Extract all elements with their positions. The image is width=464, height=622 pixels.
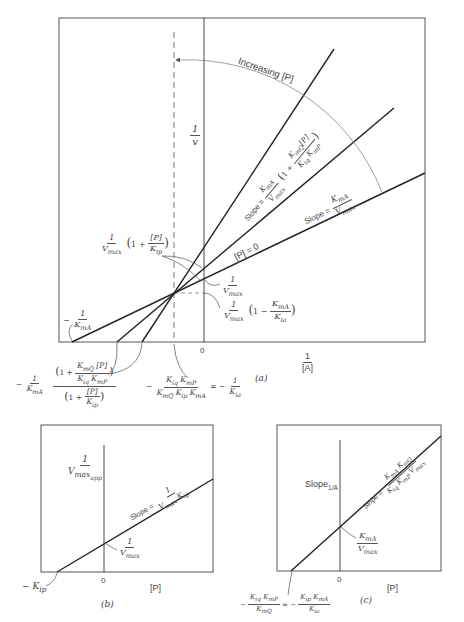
- y-intercept-label-c: KmAVmax: [356, 532, 380, 556]
- leader-b-x-intercept: [46, 573, 57, 586]
- y-axis-label-c: Slope1/A: [305, 480, 338, 491]
- x-axis-label-a: 1[A]: [300, 352, 315, 373]
- line-p-high: [142, 49, 334, 342]
- x-intercept-label-b: − Kip: [22, 582, 46, 593]
- convergence-x-label: − Kiq KmPKmQ Kip KmA = − 1Kia: [146, 376, 243, 399]
- x-intercept-inhib-label: − 1KmA (1 + KmQ [P]Kiq KmP) (1 + [P]Kip): [16, 362, 116, 408]
- caption-b: (b): [101, 600, 114, 609]
- panel-a: [59, 18, 425, 378]
- origin-b: 0: [101, 577, 105, 585]
- y-axis-label-b: 1Vmaxapp: [66, 455, 104, 481]
- panel-b: [41, 425, 213, 586]
- leader-intercept-base: [205, 280, 220, 285]
- caption-a: (a): [255, 374, 267, 383]
- convergence-y-label: 1Vmax (1 − KmAKia): [222, 300, 296, 324]
- y-intercept-label-b: 1Vmax: [118, 538, 142, 559]
- origin-c: 0: [337, 576, 341, 584]
- leader-convergence-x: [174, 344, 188, 378]
- leader-convergence-y: [204, 293, 220, 308]
- origin-a: 0: [200, 347, 204, 355]
- intercept-base-label: 1Vmax: [221, 276, 245, 297]
- intercept-inhib-label: 1Vmax (1 + [P]Kip): [100, 234, 169, 255]
- x-axis-label-c: [P]: [387, 584, 398, 593]
- x-axis-label-b: [P]: [150, 584, 161, 593]
- caption-c: (c): [360, 596, 372, 605]
- x-intercept-label-c: − Kiq KmPKmQ = − Kip KmAKia: [240, 594, 330, 615]
- leader-b-y-intercept: [105, 543, 117, 550]
- y-axis-label-a: 1v: [190, 124, 200, 147]
- leader-c-x-intercept: [288, 572, 292, 595]
- leader-c-y-intercept: [341, 527, 356, 538]
- x-intercept-base-label: − 1KmA: [63, 310, 93, 331]
